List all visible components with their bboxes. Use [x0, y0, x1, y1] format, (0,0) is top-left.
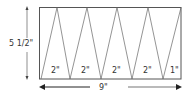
segment-label: 1"	[170, 67, 179, 75]
outer-rectangle	[40, 8, 182, 80]
segment-label: 2"	[81, 67, 90, 75]
zigzag-diagram	[0, 0, 187, 100]
width-label: 9"	[99, 84, 108, 92]
height-label: 5 1/2"	[9, 40, 33, 48]
segment-label: 2"	[143, 67, 152, 75]
segment-label: 2"	[51, 67, 60, 75]
width-dimension-arrow	[39, 84, 182, 90]
zigzag-line	[41, 8, 181, 80]
segment-label: 2"	[112, 67, 121, 75]
